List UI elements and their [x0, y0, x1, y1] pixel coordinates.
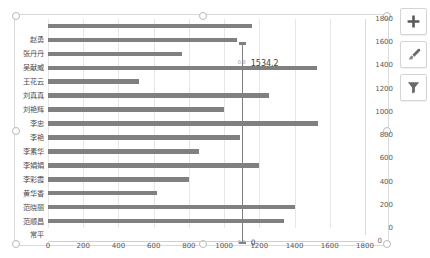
category-label: 李娟娟	[15, 158, 46, 172]
secondary-axis-line	[365, 19, 366, 235]
bar-row[interactable]	[48, 131, 365, 145]
bar-series[interactable]	[48, 19, 365, 228]
bar-row[interactable]	[48, 186, 365, 200]
bar[interactable]	[48, 163, 259, 168]
category-label: 刘真真	[15, 89, 46, 103]
reference-marker-top: 0.0	[238, 60, 246, 65]
value-axis-tick: 1600	[321, 242, 339, 250]
value-axis-tick: 1400	[286, 242, 304, 250]
category-label: 王花云	[15, 75, 46, 89]
value-axis-tick: 0	[46, 242, 50, 250]
reference-marker-bottom: 0.0	[238, 240, 246, 245]
category-label: 范晓丽	[15, 200, 46, 214]
bar-row[interactable]	[48, 19, 365, 33]
reference-line-cap-top	[239, 42, 246, 45]
category-label: 刘艳辉	[15, 103, 46, 117]
bar-row[interactable]	[48, 47, 365, 61]
bar[interactable]	[48, 93, 269, 98]
value-axis-tick: 1800	[356, 242, 374, 250]
bar-row[interactable]	[48, 144, 365, 158]
plus-icon	[406, 14, 421, 29]
bar-row[interactable]	[48, 61, 365, 75]
bar-row[interactable]	[48, 158, 365, 172]
plot-area[interactable]	[48, 19, 365, 228]
bar[interactable]	[48, 205, 295, 210]
secondary-axis-tick: 1200	[367, 85, 393, 93]
chart-styles-button[interactable]	[400, 41, 427, 68]
chart-elements-button[interactable]	[400, 8, 427, 35]
category-label: 常平	[15, 228, 46, 242]
bar[interactable]	[48, 177, 189, 182]
bar[interactable]	[48, 121, 318, 126]
secondary-axis-tick: 400	[367, 178, 393, 186]
category-label: 李忠	[15, 117, 46, 131]
value-axis-tick: 800	[182, 242, 195, 250]
value-axis-tick: 600	[147, 242, 160, 250]
category-label: 黄华香	[15, 186, 46, 200]
reference-line-zero-label: 0	[251, 238, 256, 247]
bar[interactable]	[48, 107, 224, 112]
category-label: 范顺昌	[15, 214, 46, 228]
category-label: 吴献威	[15, 61, 46, 75]
secondary-axis-tick: 1800	[367, 15, 393, 23]
category-label: 李素华	[15, 145, 46, 159]
category-label: 张丹丹	[15, 47, 46, 61]
chart-object[interactable]: 赵勇张丹丹吴献威王花云刘真真刘艳辉李忠李艳李素华李娟娟李彩霞黄华香范晓丽范顺昌常…	[14, 14, 389, 246]
chart-filters-button[interactable]	[400, 74, 427, 101]
value-axis[interactable]: 020040060080010001200140016001800	[48, 242, 365, 256]
bar[interactable]	[48, 79, 139, 84]
reference-line[interactable]	[242, 43, 243, 243]
bar-row[interactable]	[48, 103, 365, 117]
secondary-value-axis[interactable]: 180016001400120010008006004002000	[367, 19, 397, 228]
secondary-axis-tick: 800	[367, 131, 393, 139]
funnel-icon	[406, 80, 421, 95]
bar-row[interactable]	[48, 200, 365, 214]
category-label: 李彩霞	[15, 172, 46, 186]
bar[interactable]	[48, 191, 157, 196]
bar-row[interactable]	[48, 75, 365, 89]
bar[interactable]	[48, 135, 240, 140]
secondary-axis-tick: 1000	[367, 108, 393, 116]
bar[interactable]	[48, 149, 199, 154]
bar[interactable]	[48, 219, 284, 224]
category-axis[interactable]: 赵勇张丹丹吴献威王花云刘真真刘艳辉李忠李艳李素华李娟娟李彩霞黄华香范晓丽范顺昌常…	[15, 33, 46, 242]
category-label: 赵勇	[15, 33, 46, 47]
value-axis-tick: 200	[77, 242, 90, 250]
bar[interactable]	[48, 24, 252, 29]
secondary-axis-tick: 1400	[367, 61, 393, 69]
bar-row[interactable]	[48, 33, 365, 47]
secondary-axis-tick: 200	[367, 201, 393, 209]
resize-handle-bottom-right[interactable]	[383, 240, 391, 248]
bar-row[interactable]	[48, 172, 365, 186]
resize-handle-top-left[interactable]	[12, 12, 20, 20]
bar-row[interactable]	[48, 89, 365, 103]
value-axis-tick: 400	[112, 242, 125, 250]
value-axis-tick: 1000	[215, 242, 233, 250]
bar-row[interactable]	[48, 214, 365, 228]
secondary-axis-tick: 600	[367, 154, 393, 162]
axis-edge-zero-label: 0	[378, 237, 382, 245]
category-label: 李艳	[15, 131, 46, 145]
secondary-axis-tick: 1600	[367, 38, 393, 46]
reference-line-value-label: 1534.2	[251, 59, 279, 68]
secondary-axis-tick: 0	[367, 224, 393, 232]
chart-tools-panel[interactable]	[400, 8, 427, 101]
bar[interactable]	[48, 52, 182, 57]
paintbrush-icon	[406, 47, 422, 63]
bar[interactable]	[48, 38, 237, 43]
bar-row[interactable]	[48, 117, 365, 131]
